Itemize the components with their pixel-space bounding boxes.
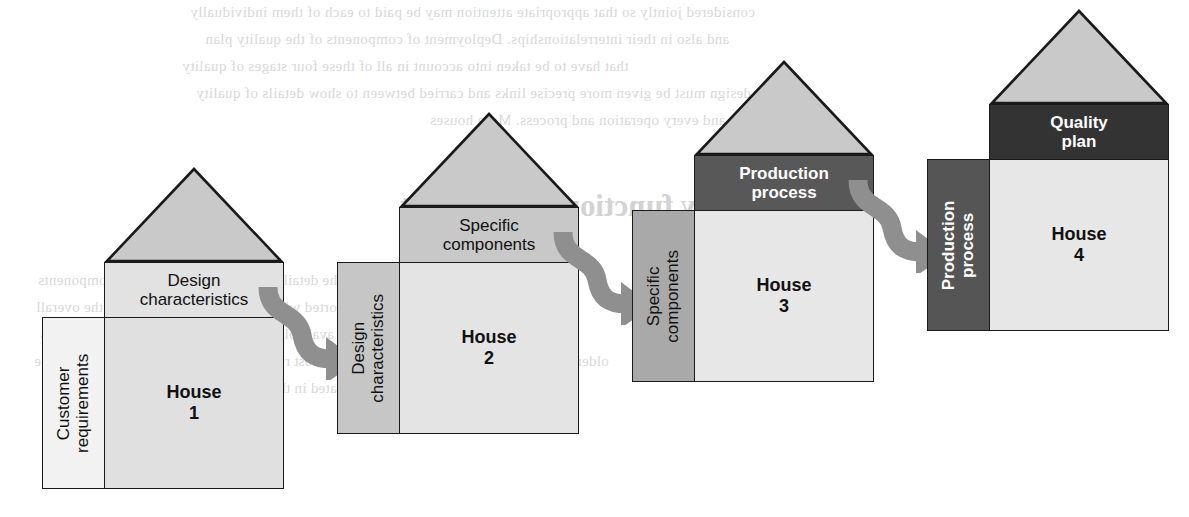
house-4-roof-band[interactable]: Quality plan — [989, 104, 1169, 160]
house-1-roof-band[interactable]: Design characteristics — [104, 262, 284, 318]
ghost-text-line-3: that have to be taken into account in al… — [182, 58, 629, 75]
house-1-body-label-line1: House — [166, 382, 221, 403]
house-4-side-label-line2: process — [959, 200, 978, 290]
house-2-roof-band[interactable]: Specific components — [399, 207, 579, 263]
house-3-side-label-line2: components — [664, 250, 683, 343]
diagram-canvas: considered jointly so that appropriate a… — [0, 0, 1189, 517]
house-1-body[interactable]: House 1 — [104, 317, 284, 489]
house-4-roof-triangle — [989, 8, 1169, 106]
house-2-side-label-line1: Design — [349, 294, 368, 403]
house-3-side-panel[interactable]: Specific components — [632, 210, 695, 382]
house-2-side-label-line2: characteristics — [369, 294, 388, 403]
house-2-body-label-line2: 2 — [461, 348, 516, 369]
house-3-body-label-line2: 3 — [756, 296, 811, 317]
house-3-roof-label-line1: Production — [739, 164, 829, 183]
ghost-text-line-1: considered jointly so that appropriate a… — [190, 4, 755, 21]
house-2-side-panel[interactable]: Design characteristics — [337, 262, 400, 434]
house-1-side-panel[interactable]: Customer requirements — [42, 317, 105, 489]
house-3-roof-band[interactable]: Production process — [694, 155, 874, 211]
house-1-roof-triangle — [104, 166, 284, 264]
house-2-body-label-line1: House — [461, 327, 516, 348]
house-4-roof-label-line1: Quality — [1050, 113, 1108, 132]
house-3-body-label-line1: House — [756, 275, 811, 296]
house-1-side-label-line2: requirements — [74, 353, 93, 452]
house-4-body-label-line1: House — [1051, 224, 1106, 245]
house-2-roof-label-line2: components — [443, 235, 536, 254]
house-4-side-panel[interactable]: Production process — [927, 159, 990, 331]
ghost-text-line-2: and also in their interrelationships. De… — [205, 31, 729, 48]
house-2-roof-label-line1: Specific — [443, 216, 536, 235]
house-1-side-label-line1: Customer — [54, 353, 73, 452]
house-3-side-label-line1: Specific — [644, 250, 663, 343]
house-1-roof-label-line1: Design — [140, 271, 249, 290]
house-1-body-label-line2: 1 — [166, 403, 221, 424]
house-4-body[interactable]: House 4 — [989, 159, 1169, 331]
house-2-body[interactable]: House 2 — [399, 262, 579, 434]
house-4-side-label-line1: Production — [939, 200, 958, 290]
house-1-roof-label-line2: characteristics — [140, 290, 249, 309]
house-3-roof-label-line2: process — [739, 183, 829, 202]
house-4-roof-label-line2: plan — [1050, 132, 1108, 151]
ghost-text-line-4: design must be given more precise links … — [196, 85, 751, 102]
house-2-roof-triangle — [399, 111, 579, 209]
house-4-body-label-line2: 4 — [1051, 245, 1106, 266]
house-3-body[interactable]: House 3 — [694, 210, 874, 382]
house-3-roof-triangle — [694, 59, 874, 157]
